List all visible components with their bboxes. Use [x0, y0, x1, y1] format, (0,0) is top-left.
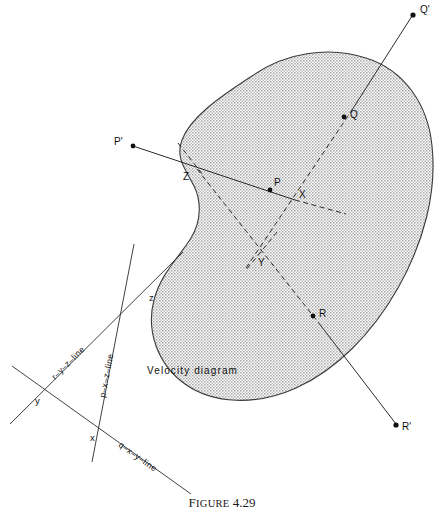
- point-dot-P-prime: [131, 144, 136, 149]
- point-dot-P: [268, 188, 273, 193]
- vd-label-y: y: [35, 395, 40, 406]
- label-Q-prime: Q': [420, 4, 430, 15]
- figure-caption: FIGURE 4.29: [0, 493, 444, 511]
- caption-number-wrap: 4.29: [230, 495, 256, 510]
- caption-number: 4.29: [233, 495, 256, 510]
- label-R: R: [319, 308, 326, 319]
- caption-word-initial: F: [188, 495, 196, 510]
- figure-4-29: P Q R P' Q' R' X Y Z r–y–z–line p–x–z–li…: [0, 0, 444, 520]
- vd-line-p-x-z: [92, 244, 134, 462]
- figure-canvas: P Q R P' Q' R' X Y Z r–y–z–line p–x–z–li…: [0, 0, 444, 520]
- vd-label-x: x: [90, 432, 95, 443]
- vd-label-q-x-y: q–x–y–line: [117, 439, 159, 473]
- label-X: X: [299, 189, 306, 200]
- point-dot-R-prime: [393, 422, 398, 427]
- label-Q: Q: [350, 109, 358, 120]
- shaded-body-region: [151, 52, 433, 400]
- velocity-diagram-title: Velocity diagram: [147, 365, 238, 376]
- vd-label-z: z: [149, 292, 154, 303]
- vd-label-p-x-z: p–x–z–line: [97, 353, 115, 399]
- label-R-prime: R': [402, 421, 411, 432]
- vd-label-r-y-z: r–y–z–line: [49, 344, 86, 381]
- body-outline: [151, 52, 433, 400]
- point-dot-R: [311, 314, 316, 319]
- point-dot-Q-prime: [410, 12, 415, 17]
- label-Y: Y: [258, 257, 265, 268]
- label-P: P: [274, 177, 281, 188]
- point-dot-Q: [342, 115, 347, 120]
- label-Z: Z: [183, 171, 189, 182]
- label-P-prime: P': [114, 136, 123, 147]
- caption-word: FIGURE: [188, 498, 229, 509]
